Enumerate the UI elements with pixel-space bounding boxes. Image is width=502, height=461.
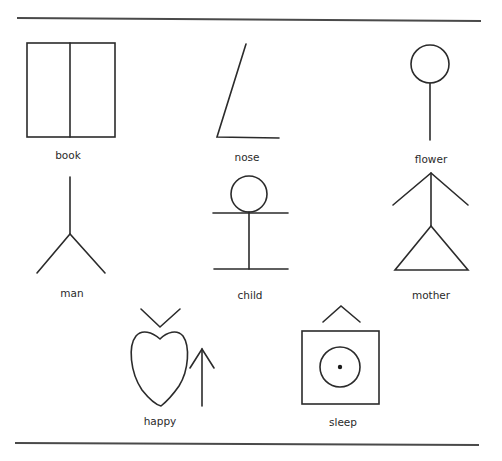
bottom-rule — [15, 443, 479, 445]
label-man: man — [60, 287, 83, 299]
top-rule — [17, 18, 481, 21]
label-happy: happy — [144, 415, 177, 427]
mother-symbol-icon — [393, 173, 468, 270]
label-sleep: sleep — [329, 416, 357, 428]
sleep-symbol-icon — [302, 306, 379, 404]
flower-symbol-icon — [411, 45, 449, 140]
symbol-drawings — [0, 0, 502, 461]
man-symbol-icon — [37, 177, 105, 273]
nose-symbol-icon — [217, 44, 279, 138]
label-flower: flower — [415, 153, 447, 165]
symbol-figure: book nose flower man child mother happy … — [0, 0, 502, 461]
label-child: child — [238, 289, 263, 301]
label-nose: nose — [234, 151, 259, 163]
label-mother: mother — [412, 289, 450, 301]
book-symbol-icon — [27, 43, 115, 137]
happy-symbol-icon — [131, 309, 214, 406]
child-symbol-icon — [213, 176, 288, 269]
label-book: book — [55, 149, 81, 161]
